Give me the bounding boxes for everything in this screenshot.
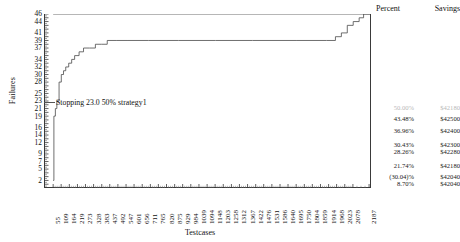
x-tick-label: 1640 xyxy=(290,210,297,224)
savings-row-percent: 21.74% xyxy=(376,163,414,170)
x-tick-label: 1422 xyxy=(258,210,265,224)
x-tick-label: 875 xyxy=(177,214,184,225)
savings-row: 28.26%$42280 xyxy=(376,149,460,156)
y-tick-label: 12 xyxy=(35,139,42,146)
savings-row-percent: 43.48% xyxy=(376,116,414,123)
x-tick-label: 929 xyxy=(185,214,192,225)
savings-row-percent: 28.26% xyxy=(376,149,414,156)
savings-row-amount: $42180 xyxy=(420,163,460,170)
savings-row-percent: 50.00% xyxy=(376,105,414,112)
x-tick-label: 273 xyxy=(87,214,94,225)
x-tick-label: 1914 xyxy=(331,210,338,224)
x-tick-label: 765 xyxy=(160,214,167,225)
x-tick-label: 984 xyxy=(193,214,200,225)
x-tick-label: 1476 xyxy=(266,210,273,224)
x-tick-label: 1039 xyxy=(201,210,208,224)
y-axis-title: Failures xyxy=(8,56,17,126)
y-tick-label: 44 xyxy=(35,18,42,25)
savings-row-percent: 36.96% xyxy=(376,128,414,135)
x-tick-label: 547 xyxy=(128,214,135,225)
x-tick-label: 1531 xyxy=(274,210,281,224)
savings-rows: 50.00%$4218043.48%$4250036.96%$4240030.4… xyxy=(376,2,460,192)
x-tick-label: 2187 xyxy=(371,210,378,224)
savings-row: 21.74%$42180 xyxy=(376,163,460,170)
x-tick-label: 1586 xyxy=(282,210,289,224)
savings-row: 36.96%$42400 xyxy=(376,128,460,135)
x-tick-label: 1968 xyxy=(339,210,346,224)
savings-row-percent: 8.70% xyxy=(376,181,414,188)
savings-row-amount: $42280 xyxy=(420,149,460,156)
chart-page: Failures 4644413937343230282523211916141… xyxy=(0,0,460,242)
x-tick-label: 437 xyxy=(112,214,119,225)
x-tick-label: 1312 xyxy=(241,210,248,224)
savings-row-amount: $42040 xyxy=(420,181,460,188)
y-tick-label: 37 xyxy=(35,44,42,51)
x-tick-label: 383 xyxy=(104,214,111,225)
savings-panel: Percent Savings 50.00%$4218043.48%$42500… xyxy=(376,2,460,192)
annotation-tick xyxy=(44,102,55,103)
savings-row-amount: $42400 xyxy=(420,128,460,135)
x-tick-label: 820 xyxy=(169,214,176,225)
x-tick-label: 328 xyxy=(96,214,103,225)
y-tick-label: 28 xyxy=(35,78,42,85)
x-tick-label: 601 xyxy=(136,214,143,225)
x-tick-label: 2078 xyxy=(355,210,362,224)
y-axis-tick-labels: 464441393734323028252321191614129752 xyxy=(18,14,42,188)
y-tick-label: 2 xyxy=(38,177,42,184)
y-tick-label: 5 xyxy=(38,165,42,172)
savings-row-amount: $42500 xyxy=(420,116,460,123)
savings-row: 50.00%$42180 xyxy=(376,105,460,112)
x-tick-label: 1367 xyxy=(250,210,257,224)
y-tick-label: 19 xyxy=(35,113,42,120)
savings-row-amount: $42180 xyxy=(420,105,460,112)
plot-right-border xyxy=(370,14,371,188)
savings-row: 8.70%$42040 xyxy=(376,181,460,188)
x-axis-title: Testcases xyxy=(0,228,400,237)
x-tick-label: 492 xyxy=(120,214,127,225)
x-axis-tick-labels: 5510916421927332838343749254760165671176… xyxy=(44,190,370,230)
x-tick-label: 2023 xyxy=(347,210,354,224)
x-tick-label: 1859 xyxy=(322,210,329,224)
savings-row: 43.48%$42500 xyxy=(376,116,460,123)
stopping-annotation: Stopping 23.0 50% strategy1 xyxy=(56,98,147,107)
